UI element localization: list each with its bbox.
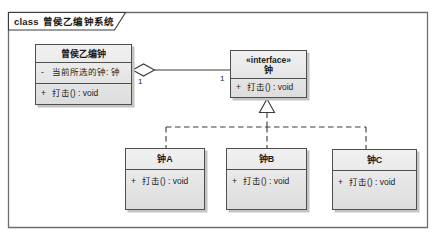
operations-compartment: + 打击() : void [126,170,204,208]
attribute-row: - 当前所选的钟: 钟 [36,63,131,77]
interface-box: «interface» 钟 + 打击() : void [230,50,307,98]
operations-compartment: + 打击() : void [36,84,131,103]
visibility-marker: + [232,176,243,186]
class-box-main: 曾侯乙编钟 - 当前所选的钟: 钟 + 打击() : void [35,44,132,105]
visibility-marker: + [131,176,142,186]
interface-header: «interface» 钟 [231,51,306,79]
interface-name: 钟 [264,65,273,75]
frame-title: class曾侯乙编钟系统 [14,15,114,29]
operation-row: + 打击() : void [36,84,131,98]
operation-text: 打击() : void [52,88,98,98]
visibility-marker: + [41,88,52,98]
operation-row: + 打击() : void [227,170,306,186]
frame-title-text: 曾侯乙编钟系统 [43,16,114,27]
operation-text: 打击() : void [349,177,395,187]
attribute-text: 当前所选的钟: 钟 [52,67,120,77]
aggregation-target-multiplicity: 1 [220,74,224,83]
operation-row: + 打击() : void [333,171,416,187]
operation-text: 打击() : void [247,82,293,92]
realization-dashed-lines [166,113,366,150]
class-name-bell-b: 钟B [227,149,306,170]
operation-text: 打击() : void [142,176,188,186]
class-name-main: 曾侯乙编钟 [36,45,131,63]
class-box-bell-b: 钟B + 打击() : void [226,148,307,210]
attributes-compartment: - 当前所选的钟: 钟 [36,63,131,84]
class-box-bell-c: 钟C + 打击() : void [332,149,417,210]
operations-compartment: + 打击() : void [333,171,416,208]
aggregation-source-multiplicity: 1 [138,77,142,86]
frame-keyword: class [14,16,39,27]
stereotype-label: «interface» [246,55,291,65]
class-box-bell-a: 钟A + 打击() : void [125,148,205,210]
visibility-marker: + [236,82,247,92]
realization-triangle [260,99,275,113]
visibility-marker: - [41,67,52,77]
class-name-bell-c: 钟C [333,150,416,171]
operation-text: 打击() : void [243,176,289,186]
aggregation-diamond [133,64,155,76]
class-name-bell-a: 钟A [126,149,204,170]
operation-row: + 打击() : void [231,79,306,92]
operations-compartment: + 打击() : void [231,79,306,96]
operations-compartment: + 打击() : void [227,170,306,208]
operation-row: + 打击() : void [126,170,204,186]
visibility-marker: + [338,177,349,187]
